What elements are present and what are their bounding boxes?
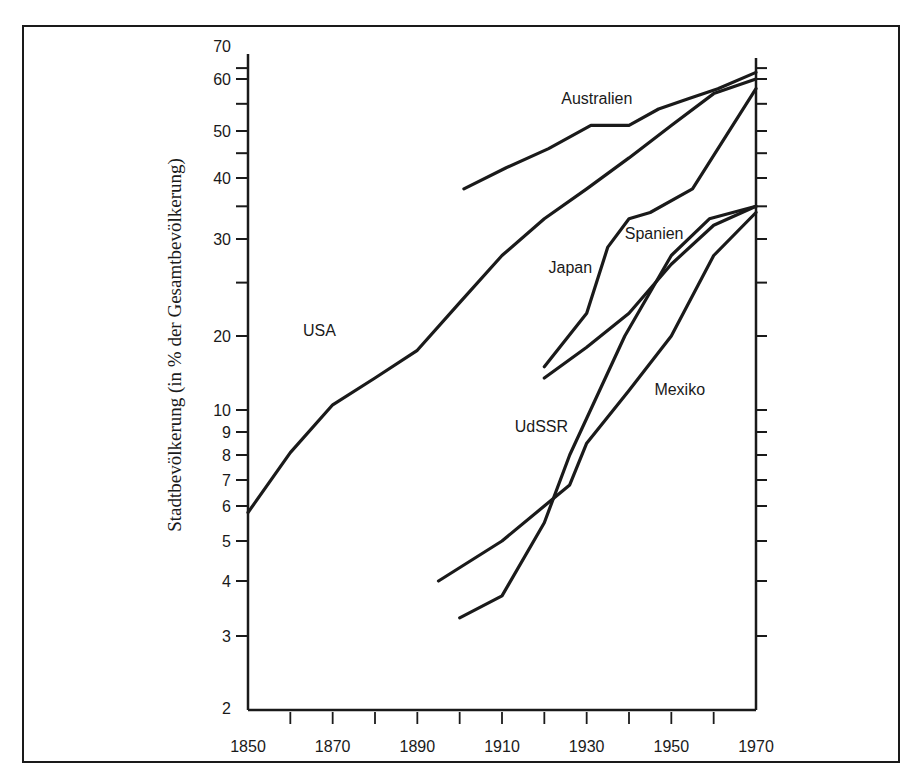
y-tick-label: 7 [222, 472, 231, 489]
y-tick-label: 2 [222, 700, 231, 717]
y-tick-label: 4 [222, 573, 231, 590]
data-lines [248, 72, 756, 617]
x-tick-label: 1910 [484, 738, 520, 755]
x-tick-label: 1950 [654, 738, 690, 755]
y-tick-label: 20 [213, 328, 231, 345]
series-line-udssr [460, 206, 756, 618]
y-tick-label: 3 [222, 628, 231, 645]
x-tick-label: 1930 [569, 738, 605, 755]
series-line-usa [248, 79, 756, 513]
series-label-udssr: UdSSR [515, 418, 568, 435]
y-tick-label: 10 [213, 402, 231, 419]
y-tick-label: 50 [213, 123, 231, 140]
y-tick-label: 70 [213, 38, 231, 55]
series-label-japan: Japan [549, 259, 593, 276]
y-tick-label: 9 [222, 424, 231, 441]
series-label-mexiko: Mexiko [654, 381, 705, 398]
series-label-australien: Australien [561, 90, 632, 107]
y-tick-label: 5 [222, 533, 231, 550]
line-chart: 2345678910203040506070185018701890191019… [0, 0, 923, 784]
y-tick-label: 30 [213, 231, 231, 248]
y-tick-label: 6 [222, 498, 231, 515]
y-tick-label: 60 [213, 71, 231, 88]
x-tick-label: 1870 [315, 738, 351, 755]
y-tick-label: 40 [213, 170, 231, 187]
x-tick-label: 1850 [230, 738, 266, 755]
y-tick-label: 8 [222, 447, 231, 464]
series-label-spanien: Spanien [625, 225, 684, 242]
series-label-usa: USA [303, 322, 336, 339]
series-labels: USAAustralienJapanSpanienMexikoUdSSR [303, 90, 705, 435]
x-tick-label: 1970 [738, 738, 774, 755]
x-tick-label: 1890 [400, 738, 436, 755]
